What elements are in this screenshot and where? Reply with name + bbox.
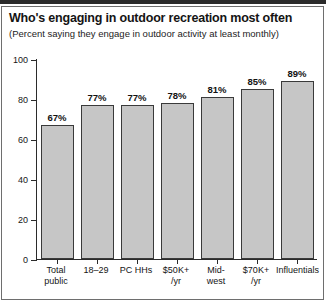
plot-area: 020406080100 67%77%77%78%81%85%89% [36, 60, 317, 260]
x-axis-label: Totalpublic [36, 265, 76, 287]
x-axis-labels: Totalpublic18–29PC HHs$50K+/yrMid-west$7… [36, 265, 317, 291]
y-tick-mark [31, 140, 36, 141]
x-axis-label-line: Influentials [276, 265, 316, 276]
y-tick-mark [31, 60, 36, 61]
chart-figure: Who's engaging in outdoor recreation mos… [0, 0, 326, 302]
x-axis-label: 18–29 [76, 265, 116, 276]
bar: 67% [41, 125, 74, 259]
x-axis-ticks [37, 260, 317, 264]
bar: 77% [121, 105, 154, 259]
y-tick-label: 40 [18, 175, 28, 185]
bar: 85% [241, 89, 274, 259]
x-axis-label-line: $50K+ [156, 265, 196, 276]
bar-value-label: 78% [167, 90, 186, 101]
bar: 89% [281, 81, 314, 259]
bar-value-label: 85% [247, 76, 266, 87]
bar-value-label: 67% [47, 112, 66, 123]
x-axis-label-line: public [36, 276, 76, 287]
x-axis-label-line: PC HHs [116, 265, 156, 276]
x-axis-label-line: 18–29 [76, 265, 116, 276]
x-axis-label: $70K+/yr [236, 265, 276, 287]
x-tick-mark [57, 260, 58, 264]
x-tick-mark [177, 260, 178, 264]
x-axis-label-line: Total [36, 265, 76, 276]
x-axis-label-line: west [196, 276, 236, 287]
x-axis-label-line: $70K+ [236, 265, 276, 276]
y-tick-label: 60 [18, 135, 28, 145]
y-tick-mark [31, 260, 36, 261]
x-tick-mark [217, 260, 218, 264]
x-axis-label: PC HHs [116, 265, 156, 276]
x-tick-mark [137, 260, 138, 264]
bar-value-label: 77% [87, 92, 106, 103]
y-tick-mark [31, 220, 36, 221]
x-tick-mark [297, 260, 298, 264]
y-tick-label: 20 [18, 215, 28, 225]
y-tick-label: 80 [18, 95, 28, 105]
x-axis-label: $50K+/yr [156, 265, 196, 287]
y-tick-mark [31, 100, 36, 101]
y-tick-mark [31, 180, 36, 181]
bar-value-label: 89% [287, 68, 306, 79]
bar: 78% [161, 103, 194, 259]
x-axis-label-line: Mid- [196, 265, 236, 276]
chart-title: Who's engaging in outdoor recreation mos… [9, 11, 309, 25]
x-tick-mark [97, 260, 98, 264]
x-axis-label: Mid-west [196, 265, 236, 287]
chart-subtitle: (Percent saying they engage in outdoor a… [9, 28, 314, 40]
bar: 81% [201, 97, 234, 259]
top-rule [0, 0, 326, 4]
bar-value-label: 77% [127, 92, 146, 103]
x-axis-label-line: /yr [236, 276, 276, 287]
bar: 77% [81, 105, 114, 259]
x-axis-label-line: /yr [156, 276, 196, 287]
bar-series: 67%77%77%78%81%85%89% [37, 59, 317, 259]
x-tick-mark [257, 260, 258, 264]
x-axis-label: Influentials [276, 265, 316, 276]
y-tick-label: 100 [13, 55, 28, 65]
y-tick-label: 0 [23, 255, 28, 265]
bar-value-label: 81% [207, 84, 226, 95]
